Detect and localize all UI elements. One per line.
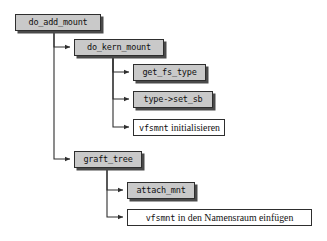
node-graft-tree[interactable]: graft_tree [74, 151, 142, 168]
node-label-mono: vfsmnt [139, 123, 169, 133]
node-label-text: initialisieren [169, 122, 220, 133]
node-vfsmnt-namensraum[interactable]: vfsmnt in den Namensraum einfügen [127, 209, 312, 226]
edge-do_kern_mount-type_set_sb [113, 56, 129, 99]
node-label-mono: vfsmnt [146, 213, 176, 223]
edge-do_kern_mount-vfsmnt_init [113, 56, 129, 127]
node-label-text: in den Namensraum einfügen [175, 212, 293, 223]
edge-do_kern_mount-get_fs_type [113, 56, 129, 72]
call-hierarchy-diagram: do_add_mount do_kern_mount get_fs_type t… [0, 0, 327, 241]
node-vfsmnt-initialisieren[interactable]: vfsmnt initialisieren [133, 119, 225, 136]
node-do-add-mount[interactable]: do_add_mount [15, 14, 101, 31]
node-label: type->set_sb [134, 92, 212, 107]
node-label: do_add_mount [16, 15, 100, 30]
node-label-parts: vfsmnt in den Namensraum einfügen [128, 210, 311, 226]
node-type-set-sb[interactable]: type->set_sb [133, 91, 213, 108]
edge-do_add_mount-graft_tree [54, 31, 70, 159]
node-label-parts: vfsmnt initialisieren [134, 120, 224, 136]
edge-graft_tree-vfsmnt_namensraum [107, 168, 123, 217]
edge-graft_tree-attach_mnt [107, 168, 123, 190]
node-label: do_kern_mount [75, 40, 163, 55]
node-label: get_fs_type [134, 65, 205, 80]
node-label: graft_tree [75, 152, 141, 167]
edge-do_add_mount-do_kern_mount [54, 31, 70, 47]
node-get-fs-type[interactable]: get_fs_type [133, 64, 206, 81]
node-label: attach_mnt [128, 183, 194, 198]
node-do-kern-mount[interactable]: do_kern_mount [74, 39, 164, 56]
node-attach-mnt[interactable]: attach_mnt [127, 182, 195, 199]
